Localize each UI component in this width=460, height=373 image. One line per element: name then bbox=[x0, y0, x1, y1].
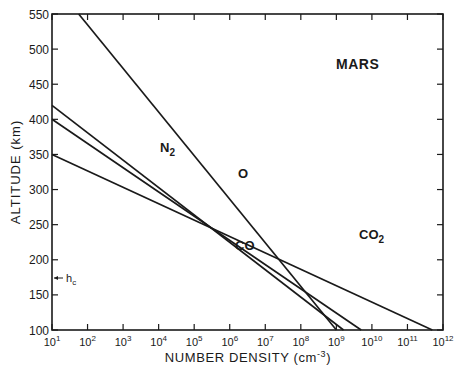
x-axis-ticks: 101102103104105106107108109101010111012 bbox=[44, 14, 454, 348]
x-tick-label: 102 bbox=[79, 334, 96, 348]
x-tick-label: 109 bbox=[328, 334, 345, 348]
altitude-density-chart: 100150200250300350400450500550 101102103… bbox=[0, 0, 460, 373]
y-tick-label: 200 bbox=[29, 253, 49, 267]
y-tick-label: 300 bbox=[29, 183, 49, 197]
hc-annotation: hc bbox=[54, 272, 76, 287]
y-tick-label: 150 bbox=[29, 288, 49, 302]
y-tick-label: 450 bbox=[29, 78, 49, 92]
y-tick-label: 350 bbox=[29, 148, 49, 162]
y-tick-label: 500 bbox=[29, 43, 49, 57]
x-tick-label: 1012 bbox=[432, 334, 454, 348]
x-tick-label: 107 bbox=[257, 334, 274, 348]
x-axis-label: NUMBER DENSITY (cm-3) bbox=[165, 349, 331, 365]
x-tick-label: 108 bbox=[292, 334, 309, 348]
x-axis-label-exponent: -3 bbox=[317, 349, 326, 359]
hc-label: hc bbox=[66, 272, 76, 287]
series-labels: ON2COCO2 bbox=[160, 140, 385, 253]
series-label-o: O bbox=[238, 166, 248, 181]
x-tick-label: 1010 bbox=[361, 334, 383, 348]
x-tick-label: 104 bbox=[150, 334, 167, 348]
series-label-n2: N2 bbox=[160, 140, 175, 158]
arrow-head-icon bbox=[54, 276, 58, 280]
x-tick-label: 1011 bbox=[397, 334, 418, 348]
series-line-co bbox=[52, 119, 361, 330]
x-tick-label: 105 bbox=[186, 334, 203, 348]
series-label-co2: CO2 bbox=[359, 227, 385, 245]
x-tick-label: 106 bbox=[221, 334, 238, 348]
y-axis-label: ALTITUDE (km) bbox=[8, 120, 23, 224]
x-axis-label-main: NUMBER DENSITY (cm bbox=[165, 350, 317, 365]
y-tick-label: 250 bbox=[29, 218, 49, 232]
x-tick-label: 103 bbox=[115, 334, 132, 348]
y-tick-label: 400 bbox=[29, 113, 49, 127]
series-line-o bbox=[79, 14, 337, 330]
x-axis-label-close: ) bbox=[326, 350, 331, 365]
chart-title: MARS bbox=[336, 56, 379, 72]
y-tick-label: 550 bbox=[29, 8, 49, 22]
x-tick-label: 101 bbox=[44, 334, 61, 348]
series-label-co: CO bbox=[235, 238, 255, 253]
